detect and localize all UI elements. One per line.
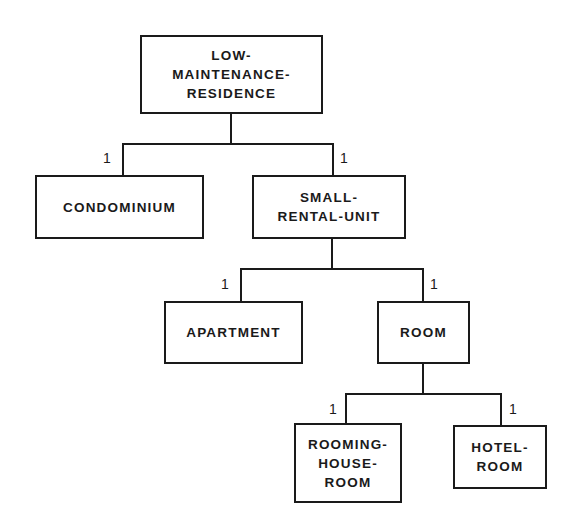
connector-line — [240, 268, 242, 302]
node-label: LOW- MAINTENANCE- RESIDENCE — [172, 46, 291, 103]
connector-line — [331, 238, 333, 269]
node-label: CONDOMINIUM — [63, 198, 176, 217]
node-label: ROOM — [400, 323, 447, 342]
node-label: ROOMING- HOUSE- ROOM — [308, 435, 388, 492]
node-hotel-room: HOTEL- ROOM — [453, 425, 547, 489]
node-label: HOTEL- ROOM — [471, 438, 528, 476]
node-condominium: CONDOMINIUM — [35, 175, 204, 239]
connector-line — [122, 143, 124, 176]
connector-line — [230, 113, 232, 144]
connector-line — [345, 393, 347, 424]
node-label: APARTMENT — [186, 323, 281, 342]
connector-line — [500, 393, 502, 426]
node-low-maintenance-residence: LOW- MAINTENANCE- RESIDENCE — [140, 35, 323, 114]
cardinality-label: 1 — [509, 401, 517, 417]
connector-line — [332, 143, 334, 176]
connector-line — [122, 143, 334, 145]
connector-line — [240, 268, 424, 270]
cardinality-label: 1 — [340, 150, 348, 166]
node-room: ROOM — [377, 301, 470, 364]
connector-line — [345, 393, 502, 395]
node-rooming-house-room: ROOMING- HOUSE- ROOM — [294, 423, 402, 503]
cardinality-label: 1 — [430, 276, 438, 292]
cardinality-label: 1 — [103, 150, 111, 166]
cardinality-label: 1 — [221, 276, 229, 292]
cardinality-label: 1 — [329, 401, 337, 417]
connector-line — [422, 363, 424, 394]
node-apartment: APARTMENT — [164, 301, 303, 364]
connector-line — [422, 268, 424, 302]
node-small-rental-unit: SMALL- RENTAL-UNIT — [252, 175, 406, 239]
node-label: SMALL- RENTAL-UNIT — [278, 188, 381, 226]
